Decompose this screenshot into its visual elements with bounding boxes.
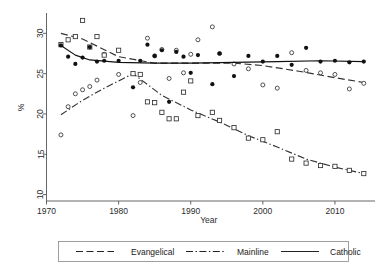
data-point-catholic [131,85,135,89]
data-point-mainline [102,53,106,57]
data-point-evangelical [95,78,99,82]
x-tick-label: 1980 [109,206,128,216]
data-point-mainline [362,171,366,175]
data-point-catholic [88,45,92,49]
data-point-catholic [66,55,70,59]
data-point-catholic [290,63,294,67]
data-point-mainline [117,48,121,52]
data-point-catholic [275,54,279,58]
x-tick-label: 1970 [37,206,56,216]
legend-label-catholic: Catholic [330,247,361,257]
y-axis-title: % [16,103,26,111]
data-point-mainline [189,79,193,83]
data-point-mainline [261,138,265,142]
data-point-mainline [145,100,149,104]
data-point-catholic [246,54,250,58]
religion-trend-scatter-chart: 101520253019701980199020002010%Year Evan… [0,0,390,268]
data-point-catholic [304,46,308,50]
data-point-mainline [73,34,77,38]
y-tick-label: 10 [36,190,46,200]
data-point-catholic [196,53,200,57]
data-point-catholic [189,71,193,75]
data-point-mainline [232,126,236,130]
x-tick-label: 1990 [181,206,200,216]
data-point-catholic [167,100,171,104]
data-point-catholic [181,55,185,59]
data-point-catholic [261,59,265,63]
y-tick-label: 15 [36,149,46,159]
data-point-mainline [196,113,200,117]
data-point-evangelical [319,71,323,75]
data-point-evangelical [131,114,135,118]
data-point-evangelical [182,71,186,75]
data-point-mainline [138,72,142,76]
data-point-evangelical [66,105,70,109]
data-point-catholic [138,59,142,63]
data-point-mainline [66,38,70,42]
data-point-evangelical [210,25,214,29]
chart-container: 101520253019701980199020002010%Year Evan… [0,0,390,268]
data-point-evangelical [59,133,63,137]
data-point-mainline [290,157,294,161]
data-point-catholic [333,59,337,63]
data-point-mainline [333,164,337,168]
data-point-evangelical [196,38,200,42]
data-point-mainline [318,163,322,167]
legend-label-mainline: Mainline [237,247,269,257]
data-point-catholic [174,50,178,54]
data-point-evangelical [73,92,77,96]
data-point-evangelical [333,72,337,76]
y-tick-label: 30 [36,28,46,38]
chart-background [0,0,390,268]
data-point-mainline [95,34,99,38]
data-point-catholic [95,59,99,63]
data-point-evangelical [347,87,351,91]
data-point-evangelical [81,88,85,92]
x-axis-title: Year [200,215,217,225]
data-point-evangelical [246,67,250,71]
data-point-mainline [210,110,214,114]
data-point-mainline [131,72,135,76]
data-point-evangelical [138,81,142,85]
data-point-mainline [217,118,221,122]
y-tick-label: 20 [36,109,46,119]
data-point-evangelical [304,68,308,72]
y-tick-label: 25 [36,69,46,79]
data-point-catholic [232,74,236,78]
data-point-catholic [160,48,164,52]
x-tick-label: 2000 [253,206,272,216]
x-tick-label: 2010 [325,206,344,216]
data-point-mainline [174,117,178,121]
data-point-catholic [102,59,106,63]
data-point-evangelical [167,76,171,80]
data-point-catholic [80,55,84,59]
data-point-mainline [181,90,185,94]
data-point-mainline [347,168,351,172]
data-point-catholic [145,43,149,47]
data-point-catholic [73,62,77,66]
data-point-mainline [80,18,84,22]
data-point-evangelical [189,52,193,56]
data-point-evangelical [362,81,366,85]
data-point-evangelical [290,51,294,55]
data-point-evangelical [145,36,149,40]
data-point-evangelical [261,83,265,87]
data-point-mainline [275,130,279,134]
data-point-mainline [304,161,308,165]
data-point-mainline [153,101,157,105]
data-point-catholic [318,59,322,63]
data-point-evangelical [88,85,92,89]
data-point-catholic [362,59,366,63]
data-point-evangelical [275,86,279,90]
data-point-mainline [160,110,164,114]
data-point-catholic [153,54,157,58]
data-point-mainline [246,136,250,140]
data-point-evangelical [117,72,121,76]
data-point-catholic [210,82,214,86]
data-point-catholic [59,43,63,47]
data-point-catholic [217,51,221,55]
data-point-mainline [167,117,171,121]
legend-label-evangelical: Evangelical [131,247,175,257]
data-point-catholic [117,59,121,63]
data-point-catholic [347,60,351,64]
